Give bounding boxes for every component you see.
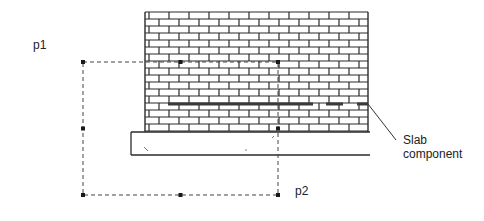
leader-line: [368, 104, 396, 140]
slab-base: [131, 132, 370, 155]
brick-wall: [145, 12, 368, 132]
diagram-canvas: [0, 0, 484, 221]
selection-box[interactable]: [81, 60, 280, 197]
point-label-p1: p1: [33, 39, 46, 52]
point-label-p2: p2: [295, 185, 308, 198]
slab-component-label-line2: component: [403, 148, 462, 161]
slab-component-label-line1: Slab: [403, 134, 427, 147]
